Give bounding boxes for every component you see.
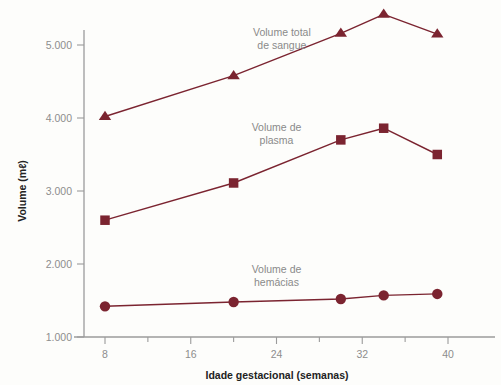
y-tick-label: 1.000 — [46, 331, 72, 343]
data-point-triangle-marker — [335, 28, 347, 37]
series-annotation-label: Volume deplasma — [252, 121, 302, 146]
series-annotation-line1: Volume de — [252, 263, 302, 275]
x-tick-label: 8 — [102, 348, 108, 360]
chart-canvas: 1.0002.0003.0004.0005.000 816243240 Volu… — [0, 0, 501, 385]
series-annotation-label: Volume dehemácias — [252, 263, 302, 288]
y-axis-title: Volume (mℓ) — [16, 160, 28, 222]
series-annotation-line2: de sangue — [257, 39, 306, 51]
y-tick-label: 4.000 — [46, 112, 72, 124]
series-3 — [100, 289, 443, 312]
x-tick-label: 32 — [356, 348, 368, 360]
y-axis-group: 1.0002.0003.0004.0005.000 — [46, 30, 84, 343]
series-annotation-label: Volume totalde sangue — [253, 26, 311, 51]
data-point-circle-marker — [378, 290, 388, 300]
data-point-square-marker — [433, 150, 443, 160]
data-point-circle-marker — [336, 294, 346, 304]
data-point-square-marker — [100, 215, 110, 225]
data-point-square-marker — [336, 135, 346, 145]
y-axis-ticks: 1.0002.0003.0004.0005.000 — [46, 39, 84, 343]
x-axis-ticks: 816243240 — [102, 337, 454, 360]
data-point-square-marker — [379, 123, 389, 133]
x-axis-group: 816243240 — [74, 337, 495, 360]
blood-volume-line-chart: 1.0002.0003.0004.0005.000 816243240 Volu… — [0, 0, 501, 385]
data-point-triangle-marker — [377, 9, 389, 18]
x-tick-label: 40 — [442, 348, 454, 360]
series-annotation-line2: plasma — [260, 134, 294, 146]
data-point-circle-marker — [432, 289, 442, 299]
data-point-square-marker — [229, 178, 239, 188]
data-point-circle-marker — [228, 297, 238, 307]
x-tick-label: 24 — [271, 348, 283, 360]
y-tick-label: 3.000 — [46, 185, 72, 197]
series-annotation-line2: hemácias — [254, 276, 299, 288]
series-annotation-line1: Volume total — [253, 26, 311, 38]
y-tick-label: 5.000 — [46, 39, 72, 51]
x-tick-label: 16 — [185, 348, 197, 360]
x-axis-title: Idade gestacional (semanas) — [206, 369, 349, 381]
data-point-circle-marker — [100, 301, 110, 311]
series-annotation-line1: Volume de — [252, 121, 302, 133]
y-tick-label: 2.000 — [46, 258, 72, 270]
